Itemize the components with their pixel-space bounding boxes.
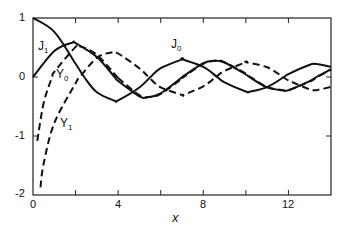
y-tick-0: 0 [19,71,25,82]
chart-plot-area [0,0,345,230]
label-j1: J1 [38,40,48,55]
label-y1: Y1 [60,117,72,132]
x-tick-12: 12 [282,199,294,210]
curves [33,18,331,187]
x-tick-0: 0 [30,199,36,210]
curve-j0 [33,18,331,102]
y-tick-minus-1: -1 [15,130,25,141]
y-tick-minus-2: -2 [15,188,25,199]
curve-y1 [41,52,332,188]
curve-j1 [33,41,331,98]
label-j0: J0 [171,38,181,53]
y-tick-1: 1 [19,12,25,23]
x-tick-8: 8 [200,199,206,210]
x-axis-label: x [172,210,179,225]
label-y0: Y0 [56,68,68,83]
x-tick-4: 4 [115,199,121,210]
